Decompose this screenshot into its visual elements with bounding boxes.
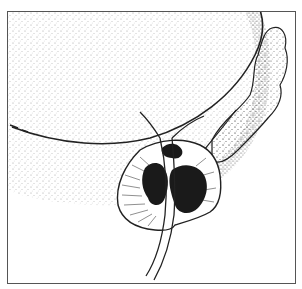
anatomical-illustration — [0, 0, 302, 289]
